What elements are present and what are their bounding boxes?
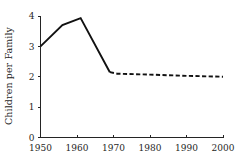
x-tick-label: 1990 (175, 143, 198, 153)
y-tick-label: 1 (29, 102, 35, 112)
x-tick-label: 1960 (66, 143, 89, 153)
y-axis-title: Children per Family (3, 26, 14, 125)
x-tick-label: 1970 (102, 143, 125, 153)
y-tick-label: 0 (29, 133, 35, 143)
x-tick-label: 1980 (139, 143, 162, 153)
line-chart: 01234 195019601970198019902000 Children … (0, 0, 242, 161)
y-tick-label: 3 (29, 42, 35, 52)
x-tick-label: 1950 (29, 143, 52, 153)
x-tick-label: 2000 (212, 143, 235, 153)
chart-background (0, 0, 242, 161)
y-tick-label: 2 (29, 72, 35, 82)
y-tick-label: 4 (29, 11, 35, 21)
chart-container: 01234 195019601970198019902000 Children … (0, 0, 242, 161)
